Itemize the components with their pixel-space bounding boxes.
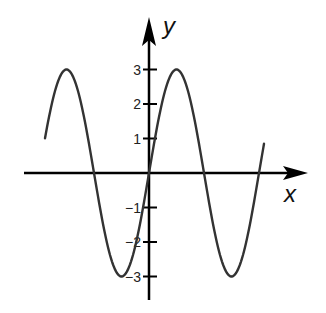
x-axis-label: x — [283, 180, 297, 207]
sine-chart: 321−1−2−3 y x — [0, 0, 326, 313]
y-axis-label: y — [161, 12, 177, 39]
y-tick-label: −2 — [125, 234, 141, 250]
y-tick-label: 3 — [133, 62, 141, 78]
y-tick-label: 1 — [133, 131, 141, 147]
y-tick-label: 2 — [133, 96, 141, 112]
y-tick-label: −1 — [125, 200, 141, 216]
